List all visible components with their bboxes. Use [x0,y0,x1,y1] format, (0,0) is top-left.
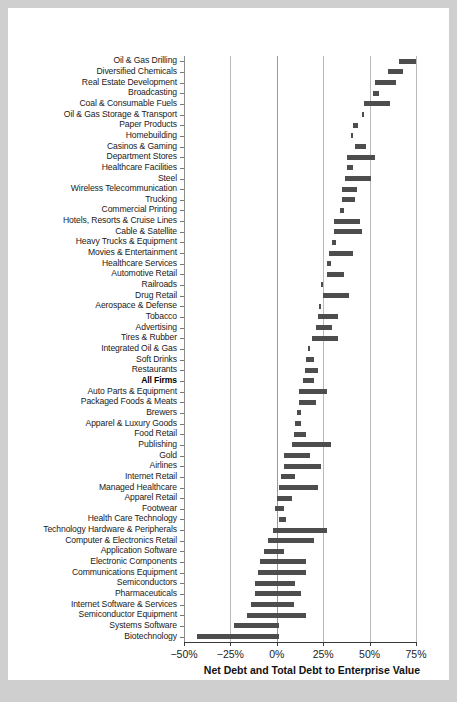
category-label: Footwear [8,504,177,513]
category-label: Communications Equipment [8,568,177,577]
category-label: Computer & Electronics Retail [8,536,177,545]
bar [255,581,296,586]
y-tick-mark [180,232,184,233]
bar [279,517,286,522]
y-tick-mark [180,583,184,584]
y-tick-mark [180,338,184,339]
y-tick-mark [180,115,184,116]
category-label: Internet Software & Services [8,600,177,609]
bar [305,368,318,373]
category-label: Drug Retail [8,291,177,300]
chart-card: Oil & Gas DrillingDiversified ChemicalsR… [8,8,449,680]
category-label: Broadcasting [8,88,177,97]
y-tick-mark [180,157,184,158]
x-tick-mark-0 [277,642,278,646]
bar [258,570,306,575]
bar [388,69,403,74]
bar [353,123,359,128]
category-label: Oil & Gas Storage & Transport [8,110,177,119]
y-tick-mark [180,93,184,94]
category-label: Apparel & Luxury Goods [8,419,177,428]
category-label: Airlines [8,461,177,470]
x-tick-mark-50 [370,642,371,646]
category-label: Brewers [8,408,177,417]
category-label: Gold [8,451,177,460]
category-label: Tobacco [8,312,177,321]
category-label: Electronic Components [8,557,177,566]
category-label: Publishing [8,440,177,449]
y-tick-mark [180,306,184,307]
bar [375,80,395,85]
category-label: Semiconductors [8,578,177,587]
y-tick-mark [180,349,184,350]
y-tick-mark [180,498,184,499]
y-tick-mark [180,551,184,552]
category-label: Soft Drinks [8,355,177,364]
category-label: Restaurants [8,365,177,374]
category-label: Auto Parts & Equipment [8,387,177,396]
y-tick-mark [180,445,184,446]
bar [268,538,314,543]
bar [197,634,279,639]
x-tick-label: 75% [405,648,426,660]
category-label: Integrated Oil & Gas [8,344,177,353]
category-label: Healthcare Facilities [8,163,177,172]
y-tick-mark [180,200,184,201]
category-label: Commercial Printing [8,205,177,214]
y-tick-mark [180,253,184,254]
bar [334,229,362,234]
category-label: Apparel Retail [8,493,177,502]
bar [319,304,321,309]
x-tick-label: 0% [269,648,284,660]
bar [279,485,318,490]
bar [329,251,353,256]
category-label: Steel [8,174,177,183]
category-label: Trucking [8,195,177,204]
y-tick-mark [180,370,184,371]
y-tick-mark [180,264,184,265]
x-axis-title: Net Debt and Total Debt to Enterprise Va… [184,664,440,676]
bar [273,528,327,533]
y-axis-line [184,56,185,642]
y-tick-mark [180,168,184,169]
y-tick-mark [180,605,184,606]
bar [355,144,366,149]
y-tick-mark [180,562,184,563]
y-tick-mark [180,530,184,531]
y-tick-mark [180,274,184,275]
x-tick-mark-25 [323,642,324,646]
bar [347,155,375,160]
y-tick-mark [180,328,184,329]
gridline-25 [323,56,324,642]
y-tick-mark [180,477,184,478]
bar [297,410,301,415]
y-tick-mark [180,509,184,510]
bar [334,219,360,224]
bar [284,453,310,458]
category-label: Healthcare Services [8,259,177,268]
bar [251,602,294,607]
category-label: Railroads [8,280,177,289]
category-label: Hotels, Resorts & Cruise Lines [8,216,177,225]
category-label: Automotive Retail [8,269,177,278]
bar [260,559,306,564]
y-tick-mark [180,147,184,148]
y-tick-mark [180,626,184,627]
category-label: All Firms [8,376,177,385]
category-label: Application Software [8,546,177,555]
bar [299,400,316,405]
bar [342,187,357,192]
x-tick-label: 25% [313,648,334,660]
x-tick-label: −25% [217,648,244,660]
bar [277,496,292,501]
y-tick-mark [180,434,184,435]
bar [316,325,333,330]
debt-to-enterprise-value-chart: Oil & Gas DrillingDiversified ChemicalsR… [8,28,449,668]
y-tick-mark [180,637,184,638]
category-label: Paper Products [8,120,177,129]
category-label: Packaged Foods & Meats [8,397,177,406]
gridline-75 [416,56,417,642]
category-label: Oil & Gas Drilling [8,56,177,65]
y-tick-mark [180,413,184,414]
y-tick-mark [180,519,184,520]
